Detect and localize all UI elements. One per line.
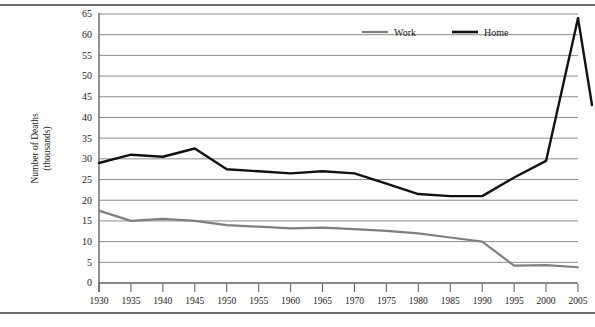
series-line-work <box>99 211 578 268</box>
y-axis-tick-label: 50 <box>82 70 92 81</box>
y-axis-tick-label: 60 <box>82 29 92 40</box>
x-axis-tick-label: 1995 <box>505 296 524 306</box>
y-axis-tick-label: 55 <box>82 50 92 61</box>
x-axis-tick-label: 1930 <box>90 296 109 306</box>
series-line-home <box>99 18 578 196</box>
x-axis-tick-label: 1935 <box>121 296 140 306</box>
y-axis-tick-label: 25 <box>82 174 92 185</box>
legend-label-home: Home <box>484 27 509 38</box>
y-axis-tick-label: 40 <box>82 112 92 123</box>
y-axis-tick-label: 45 <box>82 91 92 102</box>
x-axis-ticks-group: 1930193519401945195019551960196519701975… <box>90 284 588 306</box>
x-axis-tick-label: 1980 <box>409 296 428 306</box>
y-axis-tick-label: 10 <box>82 236 92 247</box>
series-line-home-tail <box>578 18 592 105</box>
x-axis-tick-label: 1955 <box>249 296 268 306</box>
x-axis-tick-label: 1940 <box>153 296 172 306</box>
figure-container: 05101520253035404550556065 1930193519401… <box>0 0 595 327</box>
legend-label-work: Work <box>394 27 416 38</box>
x-axis-tick-label: 1965 <box>313 296 332 306</box>
y-axis-tick-label: 65 <box>82 8 92 19</box>
axis-lines-group <box>99 13 578 292</box>
y-axis-tick-label: 5 <box>87 257 92 268</box>
y-axis-tick-label: 30 <box>82 153 92 164</box>
y-axis-ticks-group: 05101520253035404550556065 <box>82 8 92 288</box>
chart-legend: WorkHome <box>362 27 509 38</box>
x-axis-tick-label: 1970 <box>345 296 364 306</box>
x-axis-tick-label: 1975 <box>377 296 396 306</box>
x-axis-tick-label: 1950 <box>217 296 236 306</box>
x-axis-tick-label: 2000 <box>537 296 556 306</box>
y-axis-tick-label: 35 <box>82 133 92 144</box>
y-axis-tick-label: 15 <box>82 215 92 226</box>
y-axis-title-line2: (thousands) <box>42 126 53 170</box>
x-axis-tick-label: 1985 <box>441 296 460 306</box>
axis-titles-group: YearNumber of Deaths(thousands) <box>30 113 349 306</box>
line-chart: 05101520253035404550556065 1930193519401… <box>0 6 595 306</box>
bottom-horizontal-rule <box>0 312 595 314</box>
y-axis-tick-label: 20 <box>82 195 92 206</box>
x-axis-tick-label: 1960 <box>281 296 300 306</box>
y-axis-title-line1: Number of Deaths <box>30 113 40 183</box>
x-axis-tick-label: 2005 <box>569 296 588 306</box>
x-axis-tick-label: 1945 <box>185 296 204 306</box>
chart-plot-area: 05101520253035404550556065 1930193519401… <box>0 6 595 306</box>
gridlines-group <box>99 14 578 283</box>
y-axis-tick-label: 0 <box>87 277 92 288</box>
x-axis-tick-label: 1990 <box>473 296 492 306</box>
